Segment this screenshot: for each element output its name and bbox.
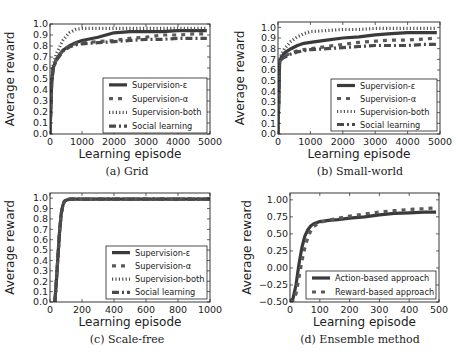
x-tick-label: 5000 — [428, 136, 452, 147]
y-tick-label: 0.25 — [267, 245, 288, 256]
panel-scale-free: (c) Scale-free 0.00.10.20.30.40.50.60.70… — [3, 192, 222, 346]
y-tick-label: 0.75 — [267, 211, 288, 222]
legend: Supervision-εSupervision-αSupervision-bo… — [106, 246, 207, 299]
x-tick-label: 600 — [137, 304, 155, 315]
legend: Action-based approachReward-based approa… — [306, 271, 436, 299]
x-tick-label: 0 — [47, 304, 53, 315]
panel-caption: (a) Grid — [105, 165, 148, 178]
y-axis-label: Average reward — [3, 200, 17, 295]
legend-label: Supervision-both — [135, 274, 204, 284]
legend-label: Reward-based approach — [335, 287, 434, 297]
y-tick-label: 0.5 — [33, 244, 48, 255]
y-tick-label: 0.7 — [33, 51, 48, 62]
y-tick-label: 0.9 — [33, 29, 48, 40]
y-tick-label: 0.2 — [261, 107, 276, 118]
y-tick-label: 0.6 — [33, 234, 48, 245]
panel-small-world: (b) Small-world 0.00.10.20.30.40.50.60.7… — [233, 22, 452, 178]
legend: Supervision-εSupervision-αSupervision-bo… — [103, 78, 207, 133]
panel-caption: (b) Small-world — [317, 165, 403, 178]
y-tick-label: 0.3 — [261, 96, 276, 107]
y-tick-label: 0.8 — [261, 43, 276, 54]
y-tick-label: 0.0 — [33, 296, 48, 307]
y-tick-label: 0.4 — [33, 255, 48, 266]
x-tick-label: 5000 — [198, 136, 222, 147]
y-tick-label: 0.1 — [33, 286, 48, 297]
x-tick-label: 1000 — [70, 136, 94, 147]
legend-label: Social learning — [360, 120, 420, 130]
x-tick-label: 400 — [105, 304, 123, 315]
x-tick-label: 300 — [370, 304, 388, 315]
y-tick-label: 0.1 — [33, 117, 48, 128]
y-tick-label: 0.7 — [33, 224, 48, 235]
x-tick-label: 4000 — [166, 136, 190, 147]
x-tick-label: 1000 — [298, 136, 322, 147]
legend-label: Social learning — [135, 287, 195, 297]
y-tick-label: 1.0 — [33, 192, 48, 203]
x-tick-label: 800 — [169, 304, 187, 315]
panel-caption: (c) Scale-free — [90, 333, 165, 346]
y-axis-label: Average reward — [3, 32, 17, 127]
x-tick-label: 1000 — [198, 304, 222, 315]
x-tick-label: 2000 — [331, 136, 355, 147]
y-tick-label: 0.6 — [33, 62, 48, 73]
x-tick-label: 500 — [430, 304, 448, 315]
x-axis-label: Learning episode — [308, 147, 411, 161]
legend-label: Supervision-α — [360, 94, 416, 104]
legend-label: Supervision-α — [132, 94, 188, 104]
y-tick-label: 0.6 — [261, 64, 276, 75]
y-axis-label: Average reward — [233, 31, 247, 126]
y-tick-label: 0.9 — [33, 203, 48, 214]
x-tick-label: 2000 — [102, 136, 126, 147]
y-tick-label: 0.5 — [33, 73, 48, 84]
legend-label: Supervision-ε — [135, 248, 190, 258]
legend-label: Supervision-both — [360, 107, 429, 117]
x-tick-label: 0 — [287, 304, 293, 315]
x-tick-label: 0 — [275, 136, 281, 147]
x-tick-label: 100 — [311, 304, 329, 315]
y-tick-label: 0.3 — [33, 95, 48, 106]
y-tick-label: 0.2 — [33, 106, 48, 117]
x-axis-label: Learning episode — [313, 315, 416, 329]
legend-label: Social learning — [132, 121, 192, 131]
y-tick-label: 0.8 — [33, 40, 48, 51]
y-tick-label: 1.00 — [267, 194, 288, 205]
x-axis-label: Learning episode — [79, 147, 182, 161]
legend-label: Action-based approach — [335, 273, 429, 283]
legend: Supervision-εSupervision-αSupervision-bo… — [331, 79, 437, 131]
y-tick-label: 0.7 — [261, 54, 276, 65]
y-tick-label: 0.0 — [261, 128, 276, 139]
x-axis-label: Learning episode — [79, 315, 182, 329]
panel-ensemble-method: (d) Ensemble method −0.50−0.250.000.250.… — [240, 193, 448, 346]
panel-caption: (d) Ensemble method — [300, 333, 420, 346]
y-tick-label: 1.0 — [33, 18, 48, 29]
y-tick-label: 0.5 — [261, 75, 276, 86]
y-tick-label: 0.9 — [261, 32, 276, 43]
legend-label: Supervision-α — [135, 261, 191, 271]
y-tick-label: 0.00 — [267, 262, 288, 273]
x-tick-label: 0 — [47, 136, 53, 147]
y-tick-label: 0.4 — [261, 86, 276, 97]
y-tick-label: 0.50 — [267, 228, 288, 239]
y-tick-label: 0.0 — [33, 128, 48, 139]
y-tick-label: 1.0 — [261, 22, 276, 33]
x-tick-label: 3000 — [363, 136, 387, 147]
x-tick-label: 200 — [73, 304, 91, 315]
x-tick-label: 3000 — [134, 136, 158, 147]
legend-label: Supervision-both — [132, 107, 201, 117]
x-tick-label: 400 — [400, 304, 418, 315]
y-tick-label: 0.2 — [33, 276, 48, 287]
y-axis-label: Average reward — [240, 200, 254, 295]
panel-grid: (a) Grid 0.00.10.20.30.40.50.60.70.80.91… — [3, 18, 222, 178]
figure: (a) Grid 0.00.10.20.30.40.50.60.70.80.91… — [0, 0, 467, 363]
y-tick-label: 0.3 — [33, 265, 48, 276]
y-tick-label: −0.25 — [259, 279, 288, 290]
y-tick-label: −0.50 — [259, 296, 288, 307]
x-tick-label: 4000 — [396, 136, 420, 147]
legend-label: Supervision-ε — [132, 80, 187, 90]
y-tick-label: 0.8 — [33, 213, 48, 224]
x-tick-label: 200 — [341, 304, 359, 315]
legend-label: Supervision-ε — [360, 81, 415, 91]
y-tick-label: 0.4 — [33, 84, 48, 95]
y-tick-label: 0.1 — [261, 118, 276, 129]
